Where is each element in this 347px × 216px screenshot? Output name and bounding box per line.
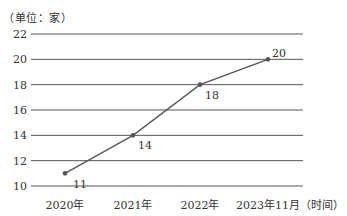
y-tick-label: 16 xyxy=(13,104,27,117)
x-axis-tick-labels: 2020年2021年2022年2023年11月（时间） xyxy=(46,198,345,212)
data-label: 14 xyxy=(138,139,152,152)
data-point-marker xyxy=(198,82,203,87)
data-point-marker xyxy=(266,57,271,62)
y-tick-label: 14 xyxy=(13,129,27,142)
x-axis-title: （时间） xyxy=(300,199,344,212)
x-tick-label: 2022年 xyxy=(181,198,220,212)
line-chart: 10121416182022 2020年2021年2022年2023年11月（时… xyxy=(0,0,347,216)
y-tick-label: 20 xyxy=(13,53,27,66)
y-tick-label: 12 xyxy=(13,155,27,168)
x-tick-label: 2023年11月 xyxy=(236,198,300,212)
x-tick-label: 2021年 xyxy=(114,198,153,212)
data-label: 11 xyxy=(73,178,87,191)
y-tick-label: 22 xyxy=(13,28,27,41)
data-label: 18 xyxy=(205,89,219,102)
x-tick-label: 2020年 xyxy=(46,198,85,212)
y-axis-tick-labels: 10121416182022 xyxy=(13,28,27,193)
data-point-marker xyxy=(131,133,136,138)
y-tick-label: 10 xyxy=(13,180,27,193)
y-tick-label: 18 xyxy=(13,79,27,92)
data-series-line xyxy=(63,57,271,176)
data-point-labels: 11141820 xyxy=(73,47,286,191)
data-point-marker xyxy=(63,171,68,176)
series-line xyxy=(65,59,268,173)
data-label: 20 xyxy=(272,47,286,60)
